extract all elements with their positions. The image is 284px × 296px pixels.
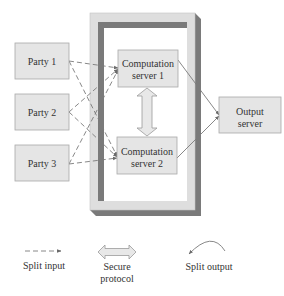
cs1-label-line2: server 1 [132, 70, 164, 81]
legend-secure-label-line1: Secure [103, 261, 131, 272]
legend: Split input Secure protocol Split output [23, 241, 233, 284]
party-2-label: Party 2 [28, 107, 57, 118]
party-3-label: Party 3 [28, 158, 57, 169]
legend-secure-protocol: Secure protocol [98, 245, 136, 284]
legend-split-output-label: Split output [186, 261, 233, 272]
output-label-line1: Output [236, 106, 264, 117]
legend-secure-label-line2: protocol [100, 273, 134, 284]
party-3-box: Party 3 [15, 145, 69, 181]
party-2-box: Party 2 [15, 94, 69, 130]
computation-server-2-box: Computation server 2 [117, 137, 177, 174]
output-label-line2: server [238, 118, 263, 129]
party-1-box: Party 1 [15, 43, 69, 79]
legend-split-output: Split output [186, 241, 233, 272]
output-server-box: Output server [219, 97, 281, 133]
legend-split-input-label: Split input [23, 260, 65, 271]
secure-computation-diagram: Party 1 Party 2 Party 3 Computation serv… [0, 0, 284, 296]
party-1-label: Party 1 [28, 56, 57, 67]
cs2-label-line2: server 2 [131, 158, 163, 169]
computation-server-1-box: Computation server 1 [118, 50, 178, 87]
curved-arrow-icon [189, 241, 225, 254]
legend-split-input: Split input [23, 251, 65, 271]
cs2-label-line1: Computation [121, 146, 173, 157]
cs1-label-line1: Computation [122, 58, 174, 69]
double-arrow-icon [98, 245, 136, 259]
